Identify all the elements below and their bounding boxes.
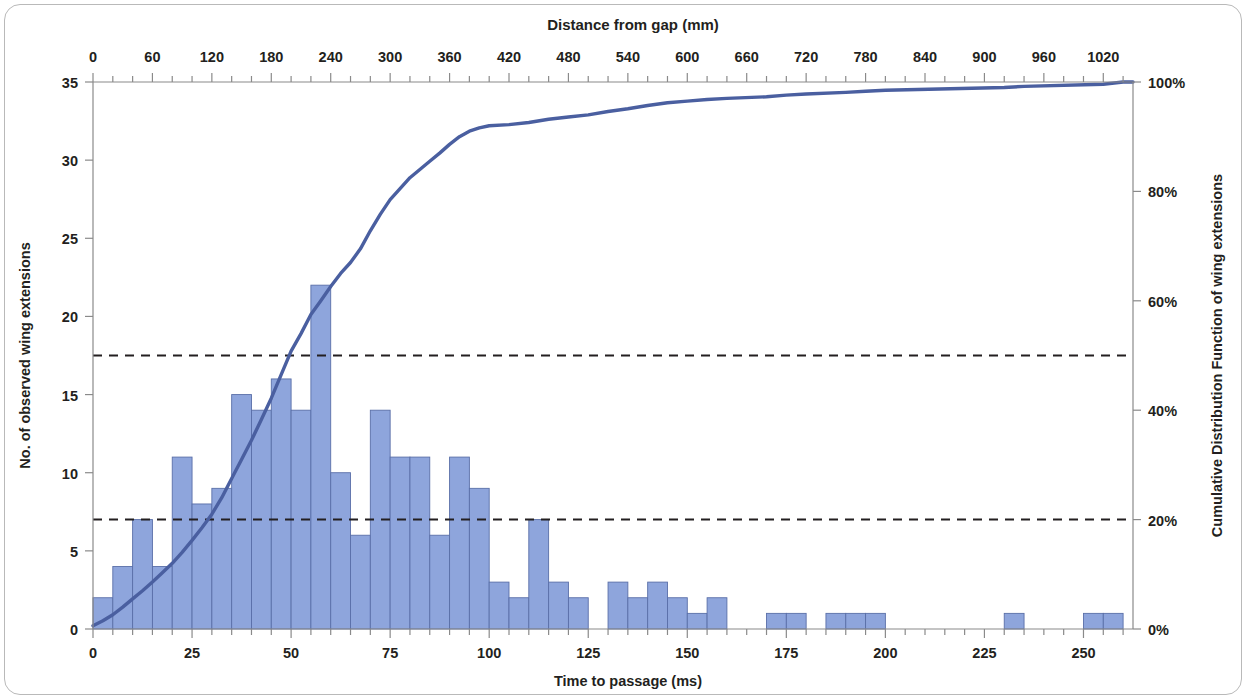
top-x-tick-label: 720 [794, 49, 818, 65]
histogram-bar [232, 395, 252, 629]
x-tick-label: 150 [675, 645, 699, 661]
y2-tick-label: 60% [1148, 294, 1177, 310]
top-axis-label: Distance from gap (mm) [547, 16, 719, 33]
x-tick-label: 225 [972, 645, 996, 661]
top-x-tick-label: 660 [735, 49, 759, 65]
y-tick-label: 25 [62, 231, 78, 247]
y-axis-label: No. of observed wing extensions [17, 242, 33, 468]
histogram-bar [826, 613, 846, 629]
histogram-bar [489, 582, 509, 629]
histogram-bar [331, 473, 351, 629]
histogram-bar [351, 535, 371, 629]
histogram-bar [271, 379, 291, 629]
histogram-bar [866, 613, 886, 629]
x-tick-label: 100 [477, 645, 501, 661]
x-tick-label: 125 [576, 645, 600, 661]
histogram-bar [667, 598, 687, 629]
histogram-bar [568, 598, 588, 629]
histogram-bar [786, 613, 806, 629]
histogram-bar [1103, 613, 1123, 629]
histogram-bar [152, 566, 172, 629]
histogram-bar [390, 457, 410, 629]
top-x-tick-label: 960 [1032, 49, 1056, 65]
top-x-tick-label: 60 [144, 49, 160, 65]
histogram-bar [113, 566, 133, 629]
histogram-bar [648, 582, 668, 629]
top-x-tick-label: 600 [675, 49, 699, 65]
histogram-bar [1083, 613, 1103, 629]
top-x-tick-label: 840 [913, 49, 937, 65]
y-tick-label: 5 [70, 544, 78, 560]
histogram-bar [628, 598, 648, 629]
histogram-bar [707, 598, 727, 629]
y2-tick-label: 100% [1148, 75, 1185, 91]
top-x-tick-label: 1020 [1087, 49, 1119, 65]
top-x-tick-label: 120 [200, 49, 224, 65]
y2-tick-label: 20% [1148, 513, 1177, 529]
top-x-tick-label: 900 [972, 49, 996, 65]
top-x-tick-label: 180 [259, 49, 283, 65]
top-x-tick-label: 300 [378, 49, 402, 65]
y-tick-label: 30 [62, 153, 78, 169]
histogram-bar [509, 598, 529, 629]
histogram-bar [450, 457, 470, 629]
top-x-tick-label: 780 [853, 49, 877, 65]
y-tick-label: 15 [62, 388, 78, 404]
top-x-tick-label: 360 [437, 49, 461, 65]
top-x-tick-label: 0 [89, 49, 97, 65]
top-x-tick-label: 480 [556, 49, 580, 65]
y2-tick-label: 40% [1148, 403, 1177, 419]
histogram-bar [767, 613, 787, 629]
histogram-bar [133, 520, 153, 629]
y2-axis-label: Cumulative Distribution Function of wing… [1209, 174, 1225, 537]
x-tick-label: 75 [382, 645, 398, 661]
top-x-tick-label: 240 [319, 49, 343, 65]
x-tick-label: 0 [89, 645, 97, 661]
x-axis-label: Time to passage (ms) [554, 673, 702, 689]
x-tick-label: 175 [774, 645, 798, 661]
y-tick-label: 0 [70, 622, 78, 638]
top-x-tick-label: 420 [497, 49, 521, 65]
histogram-bar [469, 488, 489, 629]
histogram-bar [529, 520, 549, 629]
figure-container: 0255075100125150175200225250Time to pass… [0, 0, 1246, 699]
y2-tick-label: 80% [1148, 184, 1177, 200]
x-tick-label: 50 [283, 645, 299, 661]
histogram-bar [687, 613, 707, 629]
y2-tick-label: 0% [1148, 622, 1169, 638]
y-tick-label: 10 [62, 466, 78, 482]
histogram-bar [192, 504, 212, 629]
x-tick-label: 25 [184, 645, 200, 661]
histogram-bar [549, 582, 569, 629]
y-tick-label: 20 [62, 309, 78, 325]
histogram-bar [846, 613, 866, 629]
chart-svg: 0255075100125150175200225250Time to pass… [0, 0, 1246, 699]
x-tick-label: 200 [873, 645, 897, 661]
y-tick-label: 35 [62, 75, 78, 91]
histogram-bar [410, 457, 430, 629]
x-tick-label: 250 [1071, 645, 1095, 661]
histogram-bar [311, 285, 331, 629]
histogram-bar [608, 582, 628, 629]
histogram-bar [430, 535, 450, 629]
top-x-tick-label: 540 [616, 49, 640, 65]
histogram-bar [1004, 613, 1024, 629]
